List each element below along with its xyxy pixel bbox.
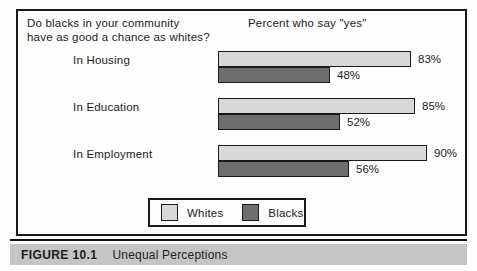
bar-value-whites: 83% bbox=[418, 53, 441, 65]
bar-value-whites: 90% bbox=[434, 147, 457, 159]
bar-blacks bbox=[218, 114, 340, 130]
legend-swatch-blacks bbox=[242, 204, 259, 221]
legend: Whites Blacks bbox=[148, 198, 306, 227]
bar-whites bbox=[218, 98, 415, 114]
bar-value-blacks: 48% bbox=[337, 69, 360, 81]
legend-swatch-whites bbox=[161, 204, 178, 221]
bar-group: In Employment 90% 56% bbox=[18, 145, 465, 177]
bar-pair: 85% 52% bbox=[218, 98, 445, 130]
figure-caption: FIGURE 10.1 Unequal Perceptions bbox=[10, 239, 467, 265]
category-label: In Housing bbox=[73, 54, 130, 66]
bar-group: In Education 85% 52% bbox=[18, 98, 465, 130]
legend-label-whites: Whites bbox=[187, 207, 223, 219]
legend-label-blacks: Blacks bbox=[268, 207, 303, 219]
figure-title: Unequal Perceptions bbox=[112, 248, 227, 262]
bar-blacks bbox=[218, 67, 330, 83]
chart-subtitle: Percent who say "yes" bbox=[248, 17, 366, 29]
category-label: In Education bbox=[73, 101, 139, 113]
bar-pair: 83% 48% bbox=[218, 51, 441, 83]
bar-group: In Housing 83% 48% bbox=[18, 51, 465, 83]
bar-pair: 90% 56% bbox=[218, 145, 457, 177]
figure-number: FIGURE 10.1 bbox=[21, 248, 97, 262]
question-line-2: have as good a chance as whites? bbox=[27, 30, 210, 44]
question-line-1: Do blacks in your community bbox=[27, 16, 210, 30]
bar-value-blacks: 52% bbox=[347, 116, 370, 128]
bar-value-blacks: 56% bbox=[356, 163, 379, 175]
figure-10-1: Do blacks in your community have as good… bbox=[0, 0, 477, 271]
bar-whites bbox=[218, 51, 411, 67]
bar-blacks bbox=[218, 161, 349, 177]
chart-frame: Do blacks in your community have as good… bbox=[16, 9, 467, 236]
bar-value-whites: 85% bbox=[422, 100, 445, 112]
category-label: In Employment bbox=[73, 148, 152, 160]
chart-question: Do blacks in your community have as good… bbox=[27, 16, 210, 44]
figure-caption-strip: FIGURE 10.1 Unequal Perceptions bbox=[10, 244, 467, 265]
bar-whites bbox=[218, 145, 427, 161]
